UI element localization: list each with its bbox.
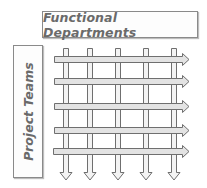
- right-arrow-icon: [55, 101, 190, 113]
- down-arrow-icon: [168, 49, 180, 181]
- down-arrow-icon: [60, 49, 72, 181]
- right-arrow-icon: [54, 146, 190, 158]
- right-arrow-icon: [55, 54, 190, 66]
- right-arrow-icon: [55, 125, 190, 137]
- right-arrow-icon: [55, 76, 190, 88]
- down-arrow-icon: [140, 49, 152, 181]
- horizontal-arrows: [54, 54, 190, 158]
- down-arrow-icon: [112, 49, 124, 181]
- vertical-arrows: [60, 49, 180, 181]
- down-arrow-icon: [84, 49, 96, 181]
- matrix-grid: [0, 0, 207, 188]
